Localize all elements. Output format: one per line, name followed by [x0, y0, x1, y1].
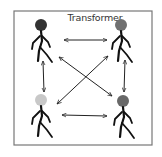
head-icon [35, 19, 47, 31]
transformer-diagram [0, 0, 162, 157]
head-icon [117, 95, 129, 107]
stick-figure-bottom-right [114, 95, 134, 138]
arrow-left-vertical [43, 61, 44, 92]
diagram-frame [14, 11, 152, 145]
head-icon [35, 94, 47, 106]
stick-figure-top-right [112, 19, 132, 62]
stick-figure-top-left [32, 19, 52, 62]
arrow-bottom-horizontal [62, 115, 107, 116]
head-icon [115, 19, 127, 31]
stick-figure-bottom-left [32, 94, 52, 137]
arrow-diagonal-tr-bl [57, 56, 108, 104]
arrow-right-vertical [124, 60, 125, 92]
